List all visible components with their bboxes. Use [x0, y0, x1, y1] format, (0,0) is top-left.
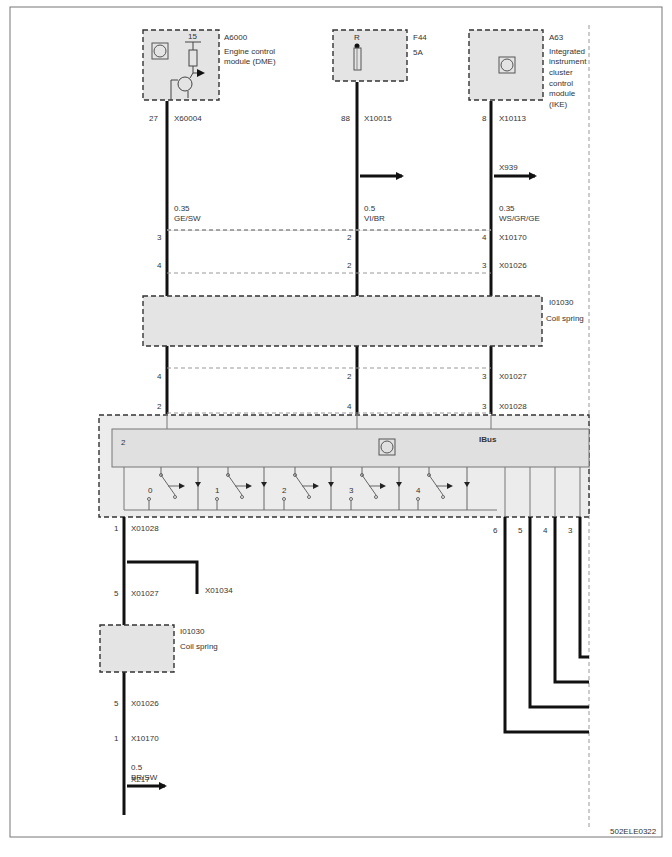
svg-text:I01030: I01030: [549, 298, 574, 307]
svg-text:F44: F44: [413, 33, 427, 42]
svg-text:Integrated: Integrated: [549, 47, 585, 56]
svg-text:module: module: [549, 89, 576, 98]
svg-text:X10015: X10015: [364, 114, 392, 123]
svg-text:X01028: X01028: [131, 524, 159, 533]
svg-text:R: R: [354, 33, 360, 42]
svg-text:Coil spring: Coil spring: [180, 642, 218, 651]
svg-text:4: 4: [543, 526, 548, 535]
svg-text:2: 2: [282, 486, 287, 495]
ike-module: [469, 30, 543, 100]
right-wires: [505, 517, 589, 732]
svg-text:instrument: instrument: [549, 57, 587, 66]
svg-text:27: 27: [149, 114, 158, 123]
svg-text:2: 2: [157, 402, 162, 411]
svg-text:5: 5: [114, 699, 119, 708]
svg-text:5: 5: [114, 589, 119, 598]
svg-text:3: 3: [482, 402, 487, 411]
svg-text:0.35: 0.35: [174, 204, 190, 213]
coil-spring-bottom: [100, 625, 174, 672]
svg-text:X01027: X01027: [131, 589, 159, 598]
svg-text:2: 2: [347, 372, 352, 381]
svg-text:3: 3: [482, 261, 487, 270]
svg-text:0.5: 0.5: [131, 763, 143, 772]
fuse-f44: R: [333, 30, 407, 81]
svg-text:module (DME): module (DME): [224, 57, 276, 66]
svg-text:1: 1: [114, 524, 119, 533]
svg-text:4: 4: [157, 261, 162, 270]
main-wires: [167, 82, 491, 414]
svg-text:VI/BR: VI/BR: [364, 214, 385, 223]
svg-text:IBus: IBus: [479, 435, 497, 444]
svg-text:5A: 5A: [413, 48, 423, 57]
svg-text:1: 1: [114, 734, 119, 743]
svg-text:(IKE): (IKE): [549, 100, 568, 109]
svg-text:Coil spring: Coil spring: [546, 314, 584, 323]
svg-text:X01027: X01027: [499, 372, 527, 381]
coil-spring-top: [143, 296, 542, 346]
svg-text:X10113: X10113: [499, 114, 527, 123]
svg-text:X01034: X01034: [205, 586, 233, 595]
svg-text:A63: A63: [549, 33, 564, 42]
dme-id: A6000: [224, 33, 248, 42]
svg-text:2: 2: [121, 438, 126, 447]
svg-text:3: 3: [482, 372, 487, 381]
svg-text:GE/SW: GE/SW: [174, 214, 201, 223]
svg-text:X10170: X10170: [499, 233, 527, 242]
svg-text:4: 4: [347, 402, 352, 411]
svg-text:1: 1: [215, 486, 220, 495]
svg-text:3: 3: [349, 486, 354, 495]
svg-text:8: 8: [482, 114, 487, 123]
x217-label: X217: [131, 775, 150, 784]
svg-text:X60004: X60004: [174, 114, 202, 123]
svg-text:cluster: cluster: [549, 68, 573, 77]
svg-text:4: 4: [416, 486, 421, 495]
svg-text:control: control: [549, 79, 573, 88]
svg-text:2: 2: [347, 233, 352, 242]
svg-text:4: 4: [482, 233, 487, 242]
svg-text:X01026: X01026: [131, 699, 159, 708]
svg-text:3: 3: [157, 233, 162, 242]
svg-text:X10170: X10170: [131, 734, 159, 743]
svg-text:5: 5: [518, 526, 523, 535]
figure-id: 502ELE0322: [610, 827, 657, 836]
steering-switch-module: 2 IBus 0 1 2 3 4: [99, 415, 589, 517]
svg-text:4: 4: [157, 372, 162, 381]
svg-text:X01028: X01028: [499, 402, 527, 411]
svg-text:0.5: 0.5: [364, 204, 376, 213]
dme-module: 15: [143, 30, 219, 100]
svg-text:88: 88: [341, 114, 350, 123]
svg-text:3: 3: [568, 526, 573, 535]
svg-text:15: 15: [188, 32, 197, 41]
svg-text:0: 0: [148, 486, 153, 495]
svg-text:2: 2: [347, 261, 352, 270]
svg-text:6: 6: [493, 526, 498, 535]
svg-text:I01030: I01030: [180, 627, 205, 636]
svg-text:0.35: 0.35: [499, 204, 515, 213]
svg-text:WS/GR/GE: WS/GR/GE: [499, 214, 540, 223]
wiring-diagram: 15 A6000 Engine control module (DME) R F…: [0, 0, 672, 857]
svg-text:Engine control: Engine control: [224, 47, 275, 56]
svg-text:X01026: X01026: [499, 261, 527, 270]
svg-text:X939: X939: [499, 163, 518, 172]
